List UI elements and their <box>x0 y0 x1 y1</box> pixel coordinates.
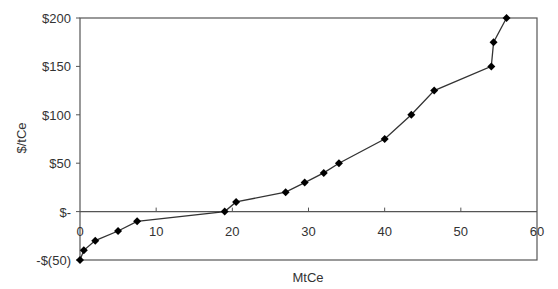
x-tick-label: 0 <box>76 224 83 239</box>
y-tick-label: $100 <box>42 108 71 123</box>
data-series <box>76 14 511 264</box>
y-axis-ticks: -$(50)$-$50$100$150$200 <box>36 11 80 268</box>
diamond-marker <box>320 169 328 177</box>
y-tick-label: $150 <box>42 59 71 74</box>
diamond-marker <box>335 159 343 167</box>
diamond-marker <box>114 227 122 235</box>
y-tick-label: -$(50) <box>36 253 71 268</box>
diamond-marker <box>301 179 309 187</box>
x-axis-label: MtCe <box>292 270 323 285</box>
x-axis-ticks: 0102030405060 <box>76 208 544 239</box>
y-tick-label: $200 <box>42 11 71 26</box>
y-axis-label: $/tCe <box>14 122 29 153</box>
x-tick-label: 10 <box>149 224 163 239</box>
x-tick-label: 50 <box>454 224 468 239</box>
y-tick-label: $50 <box>49 156 71 171</box>
diamond-marker <box>133 217 141 225</box>
diamond-marker <box>487 62 495 70</box>
x-tick-label: 30 <box>301 224 315 239</box>
series-line <box>80 18 507 260</box>
x-tick-label: 60 <box>530 224 544 239</box>
y-tick-label: $- <box>59 205 71 220</box>
cost-curve-chart: -$(50)$-$50$100$150$200 0102030405060 Mt… <box>0 0 558 289</box>
diamond-marker <box>490 38 498 46</box>
diamond-marker <box>503 14 511 22</box>
x-tick-label: 20 <box>225 224 239 239</box>
diamond-marker <box>282 188 290 196</box>
diamond-marker <box>76 256 84 264</box>
x-tick-label: 40 <box>377 224 391 239</box>
